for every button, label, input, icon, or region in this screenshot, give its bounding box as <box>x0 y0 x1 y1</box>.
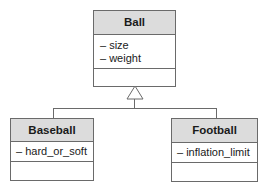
class-football-name: Football <box>172 119 257 143</box>
attribute-inflation-limit: – inflation_limit <box>177 146 257 159</box>
attribute-size: – size <box>100 39 175 52</box>
class-baseball-attributes: – hard_or_soft <box>11 142 93 162</box>
class-ball-operations <box>94 69 175 86</box>
class-baseball: Baseball – hard_or_soft <box>10 118 94 181</box>
class-baseball-operations <box>11 162 93 180</box>
class-ball-name: Ball <box>94 11 175 35</box>
class-football-attributes: – inflation_limit <box>172 143 257 163</box>
class-football: Football – inflation_limit <box>171 118 258 182</box>
class-baseball-name: Baseball <box>11 119 93 142</box>
attribute-hard-or-soft: – hard_or_soft <box>16 145 93 158</box>
class-football-operations <box>172 163 257 181</box>
attribute-weight: – weight <box>100 52 175 65</box>
connector-horizontal <box>53 108 217 109</box>
generalization-arrow-icon <box>125 85 145 101</box>
class-ball: Ball – size – weight <box>93 10 176 87</box>
class-ball-attributes: – size – weight <box>94 35 175 69</box>
